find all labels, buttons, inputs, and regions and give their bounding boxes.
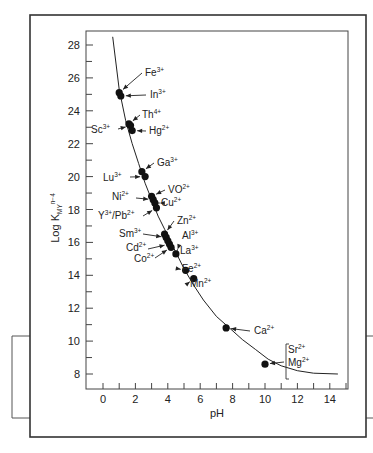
x-tick-label: 0 (100, 393, 106, 405)
y-tick-label: 26 (68, 72, 80, 84)
y-axis-title-sup: n−4 (49, 193, 56, 204)
annotation-ion: VO (168, 184, 183, 195)
annotation-ion: In (150, 89, 158, 100)
y-tick-label: 14 (68, 269, 80, 281)
annotation-charge: 2+ (121, 190, 129, 197)
x-axis-title: pH (210, 407, 224, 419)
annotation-ion: Mg (288, 357, 302, 368)
annotation-ion: Th (142, 109, 154, 120)
y-tick-label: 28 (68, 39, 80, 51)
annotation-charge: 2+ (204, 277, 212, 284)
annotation-ion: Cd (126, 242, 139, 253)
annotation-charge: 2+ (302, 356, 310, 363)
data-point-in-1 (117, 92, 124, 99)
y-tick-label: 10 (68, 335, 80, 347)
annotation-charge: 3+ (191, 229, 199, 236)
annotation-ion: Fe (182, 263, 194, 274)
y-tick-label: 20 (68, 171, 80, 183)
y-tick-label: 18 (68, 204, 80, 216)
annotation-charge: 3+ (134, 227, 142, 234)
annotation-charge: 2+ (194, 262, 202, 269)
annotation-ion: Ca (254, 325, 267, 336)
annotation-charge: 2+ (267, 324, 275, 331)
annotation-charge: 3+ (103, 123, 111, 130)
annotation-charge: 2+ (174, 196, 182, 203)
y-axis-title-sub: MY (56, 204, 63, 214)
annotation-ion: Cu (161, 197, 174, 208)
annotation-ion: Fe (145, 67, 157, 78)
y-axis-title-main: Log K (49, 213, 61, 242)
annotation-ion-2: /Pb (112, 210, 127, 221)
annotation-ion: Co (134, 253, 147, 264)
x-tick-label: 10 (259, 393, 271, 405)
x-tick-label: 6 (197, 393, 203, 405)
x-tick-label: 2 (132, 393, 138, 405)
data-point-hg-4 (129, 127, 136, 134)
annotation-charge: 2+ (182, 183, 190, 190)
data-point-ca-19 (223, 324, 230, 331)
annotation-charge: 2+ (298, 343, 306, 350)
data-point-lu-6 (142, 173, 149, 180)
annotation-ion: Sc (91, 124, 103, 135)
x-tick-label: 8 (230, 393, 236, 405)
data-point-co-15 (167, 244, 174, 251)
annotation-ion: La (180, 245, 192, 256)
y-tick-label: 16 (68, 236, 80, 248)
x-tick-label: 14 (324, 393, 336, 405)
annotation-charge: 4+ (154, 108, 162, 115)
annotation-ion: Hg (149, 125, 162, 136)
y-tick-label: 24 (68, 105, 80, 117)
annotation-charge: 3+ (157, 66, 165, 73)
annotation-charge-2: 2+ (127, 209, 135, 216)
annotation-charge: 2+ (139, 241, 147, 248)
annotation-ion: Al (182, 230, 191, 241)
chart: 02468101214 810121416182022242628 Fe3+In… (0, 0, 373, 453)
left-side-bracket (12, 336, 30, 418)
annotation-ion: Mn (190, 278, 204, 289)
x-tick-label: 4 (165, 393, 171, 405)
x-tick-label: 12 (291, 393, 303, 405)
annotation-ion: Ni (112, 191, 121, 202)
annotation-ion: Zn (177, 215, 189, 226)
y-tick-label: 8 (74, 368, 80, 380)
annotation-charge: 3+ (191, 244, 199, 251)
y-tick-label: 12 (68, 302, 80, 314)
data-point-y-pb-10 (153, 204, 160, 211)
annotation-charge: 2+ (147, 252, 155, 259)
annotation-ion: Sm (119, 228, 134, 239)
annotation-charge: 3+ (158, 88, 166, 95)
annotation-charge: 2+ (189, 214, 197, 221)
data-point-la-16 (172, 250, 179, 257)
annotation-ion: Ga (157, 157, 171, 168)
annotation-ion: Lu (103, 172, 114, 183)
y-tick-label: 22 (68, 138, 80, 150)
data-point-sr-mg-20 (261, 361, 268, 368)
annotation-charge: 3+ (170, 156, 178, 163)
annotation-charge: 2+ (162, 124, 170, 131)
annotation-charge: 3+ (114, 171, 122, 178)
